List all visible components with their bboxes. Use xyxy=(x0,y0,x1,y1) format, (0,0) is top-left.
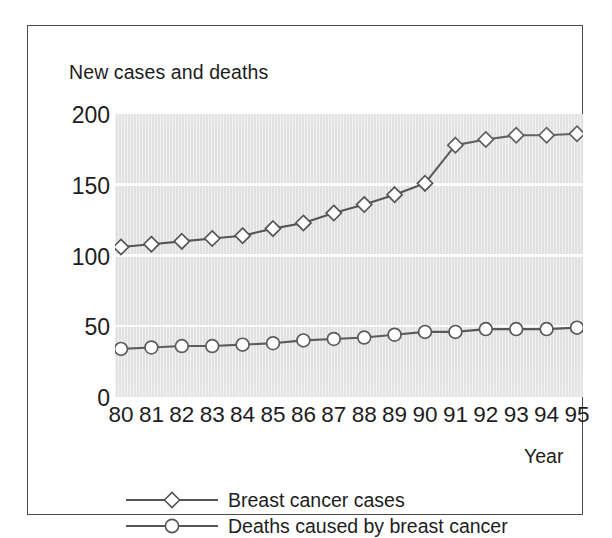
x-axis-labels: 80818283848586878889909192939495 xyxy=(115,404,583,434)
data-point-marker xyxy=(449,326,462,339)
series-breast-cancer-cases xyxy=(115,126,583,254)
data-point-marker xyxy=(571,321,583,334)
figure-container: New cases and deaths 200 150 100 50 0 xyxy=(0,0,612,538)
chart-legend: Breast cancer cases Deaths caused by bre… xyxy=(124,487,544,538)
cases-markers xyxy=(115,126,583,254)
x-axis-title: Year xyxy=(524,445,563,468)
data-point-marker xyxy=(206,340,219,353)
data-point-marker xyxy=(419,326,432,339)
data-point-marker xyxy=(388,328,401,341)
legend-label-cases: Breast cancer cases xyxy=(220,489,405,512)
data-point-marker xyxy=(235,228,250,243)
data-point-marker xyxy=(205,231,220,246)
y-tick-150: 150 xyxy=(50,175,110,198)
chart-series-svg xyxy=(115,114,583,397)
data-point-marker xyxy=(358,331,371,344)
data-point-marker xyxy=(115,239,129,254)
data-point-marker xyxy=(478,132,493,147)
x-tick-95: 95 xyxy=(557,404,597,427)
data-point-marker xyxy=(479,323,492,336)
data-point-marker xyxy=(267,337,280,350)
data-point-marker xyxy=(327,333,340,346)
chart-title: New cases and deaths xyxy=(69,61,268,84)
data-point-marker xyxy=(387,187,402,202)
legend-item-cases: Breast cancer cases xyxy=(124,487,544,513)
y-tick-100: 100 xyxy=(50,246,110,269)
y-axis-labels: 200 150 100 50 0 xyxy=(46,114,110,397)
legend-label-deaths: Deaths caused by breast cancer xyxy=(220,515,508,538)
data-point-marker xyxy=(510,323,523,336)
series-deaths-by-breast-cancer xyxy=(115,321,583,355)
data-point-marker xyxy=(175,340,188,353)
figure-frame: New cases and deaths 200 150 100 50 0 xyxy=(27,25,583,515)
data-point-marker xyxy=(145,341,158,354)
data-point-marker xyxy=(569,126,583,141)
data-point-marker xyxy=(297,334,310,347)
data-point-marker xyxy=(509,128,524,143)
deaths-line xyxy=(121,328,577,349)
y-tick-200: 200 xyxy=(50,104,110,127)
cases-line xyxy=(121,134,577,247)
data-point-marker xyxy=(236,338,249,351)
data-point-marker xyxy=(174,234,189,249)
data-point-marker xyxy=(296,215,311,230)
y-tick-50: 50 xyxy=(50,316,110,339)
data-point-marker xyxy=(357,197,372,212)
data-point-marker xyxy=(540,323,553,336)
data-point-marker xyxy=(326,205,341,220)
data-point-marker xyxy=(265,221,280,236)
data-point-marker xyxy=(115,342,127,355)
data-point-marker xyxy=(539,128,554,143)
legend-circle-marker-icon xyxy=(124,514,220,538)
plot-area xyxy=(115,114,583,397)
legend-diamond-marker-icon xyxy=(124,488,220,512)
legend-item-deaths: Deaths caused by breast cancer xyxy=(124,513,544,538)
data-point-marker xyxy=(144,237,159,252)
